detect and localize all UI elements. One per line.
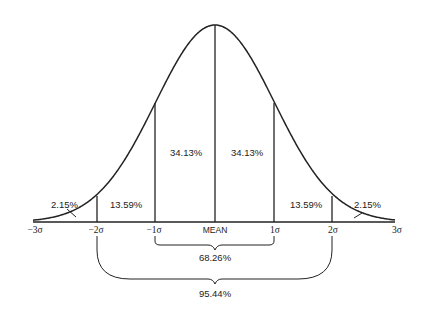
region-label-mean-pos1: 34.13% [231,147,264,158]
region-label-tail-left: 2.15% [51,199,78,210]
normal-distribution-diagram: 2.15% 13.59% 34.13% 34.13% 13.59% 2.15% … [0,0,424,316]
axis-label-pos1-sigma: 1σ [270,225,280,235]
region-label-pos1-pos2: 13.59% [290,199,323,210]
region-label-tail-right: 2.15% [354,199,381,210]
axis-label-neg3-sigma: −3σ [27,225,42,235]
axis-label-pos2-sigma: 2σ [328,225,338,235]
right-tail-pointer [354,213,362,218]
axis-label-neg2-sigma: −2σ [88,225,103,235]
brace-label-two-sigma: 95.44% [199,288,232,299]
brace-one-sigma [155,236,274,250]
brace-label-one-sigma: 68.26% [199,252,232,263]
axis-label-neg1-sigma: −1σ [146,225,161,235]
axis-label-pos3-sigma: 3σ [392,225,402,235]
region-label-neg2-neg1: 13.59% [110,199,143,210]
axis-label-mean: MEAN [203,225,228,235]
region-label-neg1-mean: 34.13% [170,147,203,158]
bell-curve [33,25,395,220]
